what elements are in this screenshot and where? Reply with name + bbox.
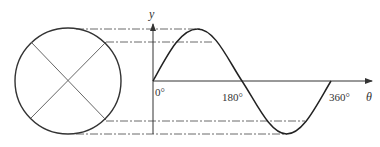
y-axis-label: y [148,7,155,21]
diagram-canvas: y 0° 180° 360° θ [0,0,380,147]
tick-label-180: 180° [222,91,243,103]
tick-label-360: 360° [329,91,350,103]
x-axis-label: θ [366,90,372,104]
tick-label-0: 0° [155,86,165,98]
sine-projection-diagram: y 0° 180° 360° θ [0,0,380,147]
